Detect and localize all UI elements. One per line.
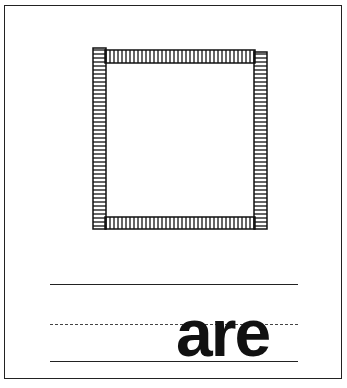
- sight-word: are: [176, 300, 269, 366]
- hatched-square-icon: [0, 0, 347, 388]
- top-writing-line: [50, 284, 298, 285]
